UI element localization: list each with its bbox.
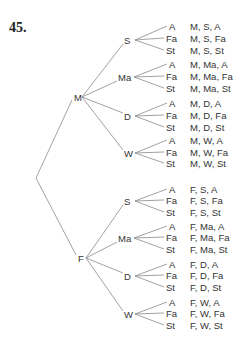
edge-M-D-Fa [135,115,164,116]
outcome-label: F, Ma, St [190,244,228,255]
outcome-label: F, S, A [190,184,218,195]
leaf-St: St [166,320,175,331]
edge-root-M [36,100,72,178]
edge-M-D-St [135,116,164,127]
tree-diagram: MSAM, S, AFaM, S, FaStM, S, StMaAM, Ma, … [0,0,247,339]
edge-M-S [82,44,123,97]
edge-M-S-St [135,40,164,50]
node-M: M [74,92,82,103]
leaf-St: St [166,158,175,169]
edge-F-S-Fa [135,200,164,201]
outcome-label: M, W, St [190,158,226,169]
outcome-label: F, D, Fa [190,270,224,281]
leaf-Fa: Fa [166,147,178,158]
outcome-label: M, D, St [190,122,225,133]
edge-F-Ma-St [134,238,164,249]
node-F-D: D [124,271,131,282]
edge-F-S [86,205,123,258]
node-F-Ma: Ma [118,233,132,244]
leaf-Fa: Fa [166,71,178,82]
edge-F-W [86,258,123,311]
outcome-label: F, W, A [190,297,220,308]
edge-F-Ma [86,242,117,258]
edge-F-S-St [135,201,164,212]
outcome-label: F, S, St [190,207,221,218]
leaf-Fa: Fa [166,270,178,281]
leaf-St: St [166,244,175,255]
leaf-St: St [166,122,175,133]
leaf-A: A [169,135,176,146]
outcome-label: F, W, St [190,320,223,331]
leaf-St: St [166,83,175,94]
node-M-W: W [124,148,133,159]
edge-root-F [36,178,76,255]
leaf-St: St [166,45,175,56]
outcome-label: M, S, Fa [190,33,227,44]
outcome-label: M, S, St [190,45,224,56]
node-M-S: S [124,35,130,46]
node-M-Ma: Ma [118,72,132,83]
edge-F-W-St [135,314,164,325]
outcome-label: M, Ma, A [190,59,228,70]
outcome-label: F, D, St [190,282,222,293]
leaf-Fa: Fa [166,110,178,121]
node-F: F [78,253,84,264]
leaf-Fa: Fa [166,195,178,206]
outcome-label: M, D, A [190,98,222,109]
leaf-A: A [169,59,176,70]
edge-M-Ma-Fa [134,76,164,77]
outcome-label: M, W, A [190,135,223,146]
outcome-label: F, S, Fa [190,195,223,206]
leaf-A: A [169,98,176,109]
leaf-A: A [169,297,176,308]
edge-M-Ma-A [134,64,167,77]
edge-F-Ma-Fa [134,237,164,238]
leaf-St: St [166,282,175,293]
edge-M-W-Fa [135,152,164,153]
outcome-label: M, D, Fa [190,110,227,121]
outcome-label: F, W, Fa [190,308,226,319]
node-F-W: W [124,309,133,320]
edge-M-W-A [135,140,167,153]
outcome-label: M, Ma, Fa [190,71,233,82]
leaf-A: A [169,221,176,232]
node-M-D: D [124,111,131,122]
edge-F-W-Fa [135,313,164,314]
edge-F-W-A [135,302,167,314]
edge-F-D-Fa [135,275,164,276]
edge-M-W-St [135,153,164,163]
node-F-S: S [124,196,130,207]
leaf-A: A [169,259,176,270]
edge-F-S-A [135,189,167,201]
outcome-label: F, Ma, Fa [190,232,230,243]
leaf-A: A [169,184,176,195]
leaf-Fa: Fa [166,232,178,243]
edge-M-Ma [82,81,117,97]
edge-F-D-A [135,264,167,276]
outcome-label: M, S, A [190,21,221,32]
outcome-label: M, W, Fa [190,147,229,158]
leaf-A: A [169,21,176,32]
outcome-label: F, Ma, A [190,221,225,232]
edge-F-Ma-A [134,226,167,238]
outcome-label: M, Ma, St [190,83,231,94]
leaf-Fa: Fa [166,308,178,319]
edge-F-D-St [135,276,164,287]
leaf-St: St [166,207,175,218]
outcome-label: F, D, A [190,259,219,270]
edge-M-D-A [135,103,167,116]
edge-M-Ma-St [134,77,164,88]
leaf-Fa: Fa [166,33,178,44]
